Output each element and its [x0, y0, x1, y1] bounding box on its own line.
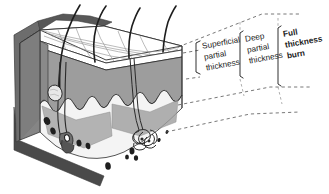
burn-depth-diagram: Superficial partial thickness Deep parti… [0, 0, 329, 194]
dermis-left-face [40, 41, 48, 104]
fat-cell [134, 155, 138, 161]
block-left-edge [20, 30, 40, 140]
diagram-canvas: Superficial partial thickness Deep parti… [0, 0, 329, 194]
fat-cell [125, 154, 129, 159]
